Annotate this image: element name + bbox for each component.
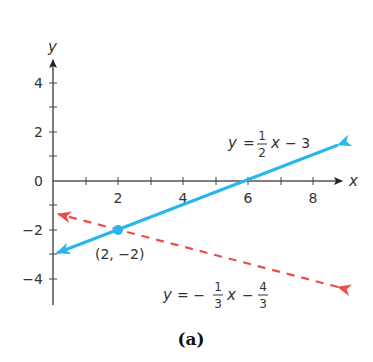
svg-text:x: x	[226, 286, 236, 304]
x-axis-label: x	[348, 172, 358, 190]
svg-text:x: x	[270, 134, 280, 152]
svg-text:= −: = −	[177, 287, 205, 303]
line-y-half-x-minus-3	[57, 145, 338, 253]
svg-text:1: 1	[214, 280, 222, 294]
svg-text:− 3: − 3	[285, 135, 310, 151]
x-tick-label: 6	[244, 190, 253, 206]
y-tick-label: −2	[22, 222, 43, 238]
y-tick-label: 2	[34, 124, 43, 140]
equation-label-red: y = − 1 3 x − 4 3	[162, 280, 268, 311]
svg-text:=: =	[243, 135, 255, 151]
svg-text:2: 2	[258, 146, 266, 160]
svg-text:−: −	[242, 287, 254, 303]
figure-caption: (a)	[177, 329, 204, 349]
svg-text:y: y	[227, 134, 238, 152]
svg-text:3: 3	[214, 297, 222, 311]
chart-canvas: 2 4 6 8 4 2 0 −2 −4 x y (2, −2) y = 1 2 …	[0, 0, 373, 362]
x-tick-label: 8	[309, 190, 318, 206]
svg-text:y: y	[162, 286, 173, 304]
equation-label-blue: y = 1 2 x − 3	[227, 129, 310, 160]
svg-text:3: 3	[259, 297, 267, 311]
axes	[53, 60, 342, 305]
x-tick-label: 2	[114, 190, 123, 206]
y-tick-label: 0	[34, 173, 43, 189]
y-tick-label: 4	[34, 75, 43, 91]
y-axis-label: y	[47, 38, 58, 56]
y-tick-label: −4	[22, 271, 43, 287]
intersection-point	[113, 225, 123, 235]
svg-text:1: 1	[258, 129, 266, 143]
svg-text:4: 4	[259, 280, 267, 294]
intersection-label: (2, −2)	[95, 246, 144, 262]
